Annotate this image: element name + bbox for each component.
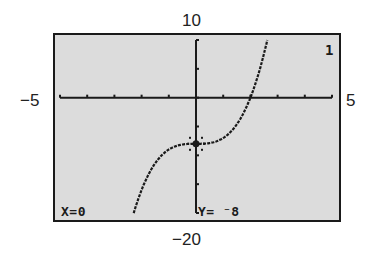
graph-plot (55, 35, 339, 220)
function-curve (134, 40, 268, 213)
trace-cursor-dot (201, 149, 203, 151)
window-xmin-label: −5 (20, 92, 39, 109)
trace-cursor-dot (203, 143, 205, 145)
trace-cursor-dot (195, 135, 197, 137)
window-ymax-label: 10 (182, 12, 201, 29)
trace-y-readout: Y= ⁻8 (198, 205, 240, 218)
trace-cursor-dot (189, 137, 191, 139)
trace-cursor-dot (189, 149, 191, 151)
trace-cursor-icon (193, 140, 200, 147)
window-ymin-label: −20 (172, 231, 201, 248)
window-xmax-label: 5 (346, 92, 355, 109)
calculator-screen: 1 X=0 Y= ⁻8 (53, 33, 341, 222)
trace-cursor-dot (187, 143, 189, 145)
trace-cursor-dot (195, 151, 197, 153)
trace-cursor-dot (201, 137, 203, 139)
trace-x-readout: X=0 (61, 205, 86, 218)
function-index: 1 (325, 43, 334, 57)
